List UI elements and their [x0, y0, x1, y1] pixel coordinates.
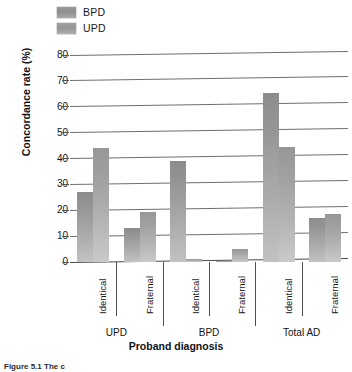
x-tick-label-fraternal-3: Fraternal	[236, 276, 247, 314]
x-tick-label-identical-0: Identical	[97, 279, 108, 314]
legend-label-upd: UPD	[83, 23, 106, 34]
category-separator-1	[116, 262, 117, 316]
y-tick-mark-20	[62, 210, 69, 211]
x-tick-label-fraternal-1: Fraternal	[144, 276, 155, 314]
y-tick-mark-30	[62, 184, 69, 185]
x-tick-label-identical-2: Identical	[190, 279, 201, 314]
category-separator-2	[163, 262, 164, 316]
group-label-bpd: BPD	[199, 327, 220, 338]
y-tick-mark-50	[62, 132, 69, 133]
bar-bpd-identical-4	[263, 93, 279, 262]
bar-upd-fraternal-3	[232, 249, 248, 262]
legend-swatch-upd-icon	[57, 23, 76, 34]
bar-bpd-identical-2	[170, 161, 186, 262]
bar-bpd-fraternal-1	[124, 228, 140, 262]
x-axis-group-labels: UPDBPDTotal AD	[70, 316, 348, 340]
category-separator-5	[302, 262, 303, 316]
figure-concordance-rate: BPD UPD 01020304050607080 Concordance ra…	[0, 0, 352, 372]
chart-legend: BPD UPD	[57, 6, 106, 34]
y-tick-mark-0	[62, 262, 69, 263]
y-axis-label: Concordance rate (%)	[20, 32, 32, 172]
x-tick-label-identical-4: Identical	[283, 279, 294, 314]
category-separator-4	[255, 262, 256, 316]
y-tick-mark-10	[62, 236, 69, 237]
group-label-total-ad: Total AD	[283, 327, 320, 338]
y-tick-mark-40	[62, 158, 69, 159]
x-axis-category-labels: IdenticalFraternalIdenticalFraternalIden…	[70, 262, 348, 320]
bar-bpd-fraternal-5	[309, 218, 325, 262]
figure-caption: Figure 5.1 The c	[4, 362, 348, 371]
legend-swatch-bpd-icon	[57, 7, 76, 18]
legend-item-upd: UPD	[57, 22, 106, 34]
bar-upd-fraternal-5	[325, 214, 341, 262]
category-separator-3	[209, 262, 210, 316]
x-tick-label-fraternal-5: Fraternal	[329, 276, 340, 314]
bar-upd-identical-0	[93, 148, 109, 262]
y-axis: 01020304050607080	[38, 55, 68, 262]
bar-series-container	[70, 55, 348, 262]
group-tick-2	[255, 316, 256, 326]
group-tick-1	[163, 316, 164, 326]
y-tick-mark-80	[62, 55, 69, 56]
bar-bpd-identical-0	[77, 192, 93, 262]
y-tick-mark-60	[62, 106, 69, 107]
group-label-upd: UPD	[106, 327, 127, 338]
legend-label-bpd: BPD	[83, 7, 105, 18]
legend-item-bpd: BPD	[57, 6, 106, 18]
x-axis-label: Proband diagnosis	[0, 340, 352, 352]
bar-upd-fraternal-1	[140, 212, 156, 262]
bar-upd-identical-4	[279, 147, 295, 262]
plot-area	[70, 55, 348, 262]
y-tick-mark-70	[62, 80, 69, 81]
